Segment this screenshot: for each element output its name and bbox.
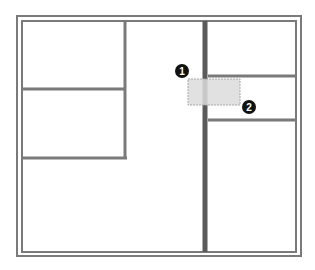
marker-label: 2 xyxy=(246,102,252,113)
outer-wall xyxy=(17,16,301,256)
floor-plan: 12 xyxy=(0,0,315,270)
interior-walls xyxy=(22,21,296,252)
step-marker-1: 1 xyxy=(175,64,189,78)
step-marker-2: 2 xyxy=(242,100,256,114)
inner-wall xyxy=(22,21,296,252)
marker-label: 1 xyxy=(179,66,185,77)
selection-rectangle[interactable] xyxy=(188,79,240,105)
